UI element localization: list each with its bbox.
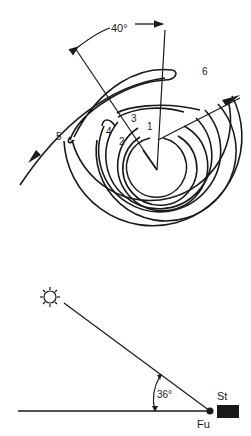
waypoint-4-label: 4 [106, 126, 112, 137]
angle-40-label: 40° [111, 22, 128, 34]
feeding-site-dot [207, 408, 214, 415]
sun-ray-line [64, 303, 210, 411]
sun-direction-line [157, 30, 165, 170]
hive-rect [217, 405, 239, 418]
waypoint-3-label: 3 [131, 113, 137, 124]
hive-label: St [217, 390, 227, 402]
bee-navigation-diagram: 40° 6 3 1 4 5 2 36° St Fu [0, 0, 251, 436]
waypoint-6-label: 6 [202, 66, 208, 77]
waypoint-1-label: 1 [147, 121, 153, 132]
angle-40-arc-left [78, 28, 110, 47]
sun-icon [40, 287, 60, 307]
spiral-search-path [64, 69, 242, 225]
angle-36-label: 36° [157, 389, 172, 400]
feeding-site-label: Fu [197, 418, 210, 430]
waypoint-5-label: 5 [56, 131, 62, 142]
waypoint-2-label: 2 [119, 136, 125, 147]
rotation-arrow-icon [28, 150, 41, 163]
rotation-arc [20, 78, 165, 185]
entry-arrow-icon [222, 95, 240, 106]
